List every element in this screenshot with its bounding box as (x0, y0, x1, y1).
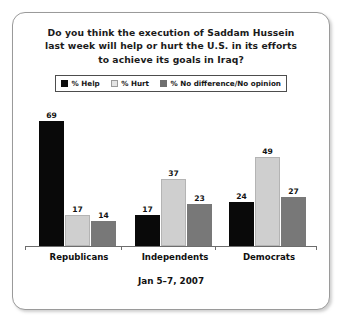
title-line-3: to achieve its goals in Iraq? (27, 53, 315, 66)
bar (39, 121, 64, 246)
bar-item: 27 (281, 96, 306, 246)
page-title: Do you think the execution of Saddam Hus… (27, 26, 315, 66)
bar-value-label: 37 (168, 170, 179, 178)
title-line-2: last week will help or hurt the U.S. in … (27, 39, 315, 52)
bar-value-label: 69 (46, 112, 57, 120)
bar (65, 215, 90, 246)
category-label-democrats: Democrats (243, 252, 295, 262)
bar-value-label: 23 (194, 195, 205, 203)
bar (187, 204, 212, 246)
bar-value-label: 49 (262, 148, 273, 156)
legend-item-help: % Help (61, 79, 100, 88)
bar-item: 17 (65, 96, 90, 246)
bar-value-label: 17 (72, 206, 83, 214)
legend-label-nodifference: % No difference/No opinion (171, 79, 281, 88)
chart-category-labels: RepublicansIndependentsDemocrats (25, 247, 317, 263)
bar (229, 202, 254, 246)
poll-chart-card: Do you think the execution of Saddam Hus… (12, 12, 330, 310)
bar-value-label: 17 (142, 206, 153, 214)
chart-plot-area: 691714173723244927 (25, 96, 317, 246)
bar-item: 14 (91, 96, 116, 246)
bar (91, 221, 116, 246)
chart-footer-date: Jan 5–7, 2007 (13, 276, 329, 286)
bar (255, 157, 280, 246)
legend-item-nodifference: % No difference/No opinion (160, 79, 281, 88)
bar-value-label: 27 (288, 188, 299, 196)
legend-label-hurt: % Hurt (121, 79, 149, 88)
bar (161, 179, 186, 246)
bar-item: 37 (161, 96, 186, 246)
bar-group-independents: 173723 (135, 96, 212, 246)
category-label-republicans: Republicans (50, 252, 109, 262)
bar-item: 24 (229, 96, 254, 246)
bar-group-democrats: 244927 (229, 96, 306, 246)
legend-swatch-help-icon (61, 80, 68, 87)
title-line-1: Do you think the execution of Saddam Hus… (27, 26, 315, 39)
legend-swatch-hurt-icon (111, 80, 118, 87)
bar-item: 49 (255, 96, 280, 246)
bar-value-label: 14 (98, 212, 109, 220)
bar-value-label: 24 (236, 193, 247, 201)
legend-label-help: % Help (72, 79, 100, 88)
bar-item: 17 (135, 96, 160, 246)
bar-item: 69 (39, 96, 64, 246)
bar-group-republicans: 691714 (39, 96, 116, 246)
bar (135, 215, 160, 246)
bar (281, 197, 306, 246)
bar-item: 23 (187, 96, 212, 246)
legend-item-hurt: % Hurt (111, 79, 149, 88)
category-label-independents: Independents (142, 252, 209, 262)
chart-legend: % Help % Hurt % No difference/No opinion (55, 75, 287, 92)
legend-swatch-nodifference-icon (160, 80, 167, 87)
